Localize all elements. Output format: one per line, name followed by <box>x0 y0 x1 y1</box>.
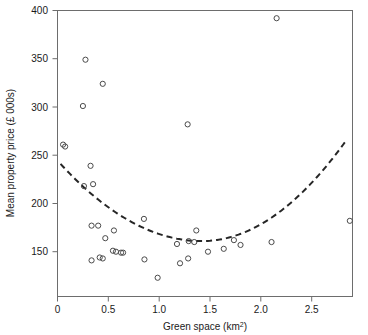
x-tick-label-1-0: 1.0 <box>152 304 166 315</box>
y-tick-label-300: 300 <box>31 102 48 113</box>
data-point <box>238 242 243 247</box>
data-point <box>221 246 226 251</box>
data-point <box>185 122 190 127</box>
data-point <box>231 238 236 243</box>
data-point <box>155 275 160 280</box>
y-tick-label-400: 400 <box>31 5 48 16</box>
plot-frame <box>58 11 353 297</box>
y-tick-label-200: 200 <box>31 198 48 209</box>
x-axis-title: Green space (km2) <box>163 321 247 333</box>
data-point <box>347 218 352 223</box>
data-point <box>113 249 118 254</box>
y-tick-label-350: 350 <box>31 53 48 64</box>
x-axis-ticks <box>58 297 312 302</box>
data-point <box>274 16 279 21</box>
data-point <box>194 228 199 233</box>
data-point <box>192 239 197 244</box>
data-point <box>186 256 191 261</box>
data-point <box>111 228 116 233</box>
data-point <box>141 216 146 221</box>
data-point <box>89 223 94 228</box>
x-tick-label-0-5: 0.5 <box>101 304 115 315</box>
scatter-plot-figure: 400 350 300 250 200 150 0 0.5 1.0 1.5 2.… <box>0 0 368 335</box>
y-tick-label-150: 150 <box>31 246 48 257</box>
y-tick-label-250: 250 <box>31 150 48 161</box>
chart-svg: 400 350 300 250 200 150 0 0.5 1.0 1.5 2.… <box>0 0 368 335</box>
data-point <box>96 223 101 228</box>
data-point <box>83 57 88 62</box>
y-axis-title: Mean property price (£ 000s) <box>5 89 16 217</box>
data-point <box>100 256 105 261</box>
data-point <box>80 103 85 108</box>
data-point <box>100 81 105 86</box>
x-axis-title-tail: ) <box>244 321 247 332</box>
data-point <box>177 261 182 266</box>
data-point <box>88 163 93 168</box>
data-point <box>142 257 147 262</box>
x-tick-label-1-5: 1.5 <box>203 304 217 315</box>
x-tick-label-2-0: 2.0 <box>254 304 268 315</box>
data-point <box>90 182 95 187</box>
x-tick-labels: 0 0.5 1.0 1.5 2.0 2.5 <box>55 304 319 315</box>
trend-line-dashed <box>61 142 346 241</box>
data-point <box>174 241 179 246</box>
data-point <box>89 258 94 263</box>
data-point <box>205 249 210 254</box>
y-tick-labels: 400 350 300 250 200 150 <box>31 5 48 257</box>
x-tick-label-2-5: 2.5 <box>305 304 319 315</box>
data-point <box>103 236 108 241</box>
y-axis-ticks <box>53 11 58 252</box>
x-axis-title-base: Green space (km <box>163 321 240 332</box>
x-tick-label-0: 0 <box>55 304 61 315</box>
data-point <box>269 239 274 244</box>
